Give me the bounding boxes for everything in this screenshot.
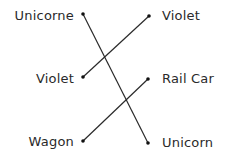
dot-right-unicorn <box>146 141 150 145</box>
right-item-rail-car: Rail Car <box>162 71 214 87</box>
line-wagon-railcar <box>83 79 148 141</box>
dot-left-unicorne <box>81 12 85 16</box>
left-item-violet: Violet <box>4 71 74 87</box>
line-unicorne-unicorn <box>83 14 148 143</box>
dot-left-violet <box>81 75 85 79</box>
left-item-wagon: Wagon <box>4 134 74 150</box>
matching-diagram: Unicorne Violet Wagon Violet Rail Car Un… <box>0 0 227 162</box>
dot-left-wagon <box>81 139 85 143</box>
line-violet-violet <box>83 16 149 77</box>
dot-right-violet <box>147 14 151 18</box>
left-item-unicorne: Unicorne <box>4 8 74 24</box>
dot-right-railcar <box>146 77 150 81</box>
right-item-violet: Violet <box>162 8 200 24</box>
right-item-unicorn: Unicorn <box>162 135 213 151</box>
